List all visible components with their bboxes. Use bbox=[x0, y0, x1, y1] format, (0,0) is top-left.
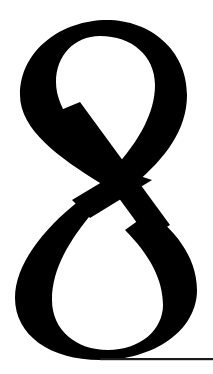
lower-loop bbox=[15, 200, 197, 360]
baseline-rule bbox=[100, 358, 213, 360]
numeral-eight-glyph bbox=[0, 0, 213, 374]
numeral-figure: 8 bbox=[0, 0, 213, 374]
